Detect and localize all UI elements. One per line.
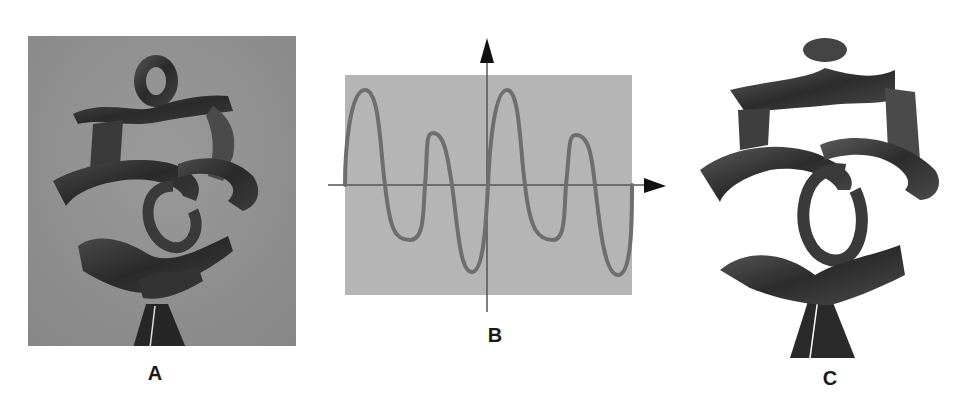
waveform-plot [320,30,680,320]
sculpture-rendering [690,30,960,365]
y-axis-arrow-icon [480,38,494,63]
panel-a-label: A [140,362,170,385]
panel-b-chart [320,30,680,320]
panel-c-rendering [690,30,960,365]
panel-a-photo [28,36,296,346]
x-axis-arrow-icon [644,178,666,193]
panel-b-label: B [480,324,510,347]
panel-c-label: C [815,367,845,390]
sculpture-photo [28,36,296,346]
